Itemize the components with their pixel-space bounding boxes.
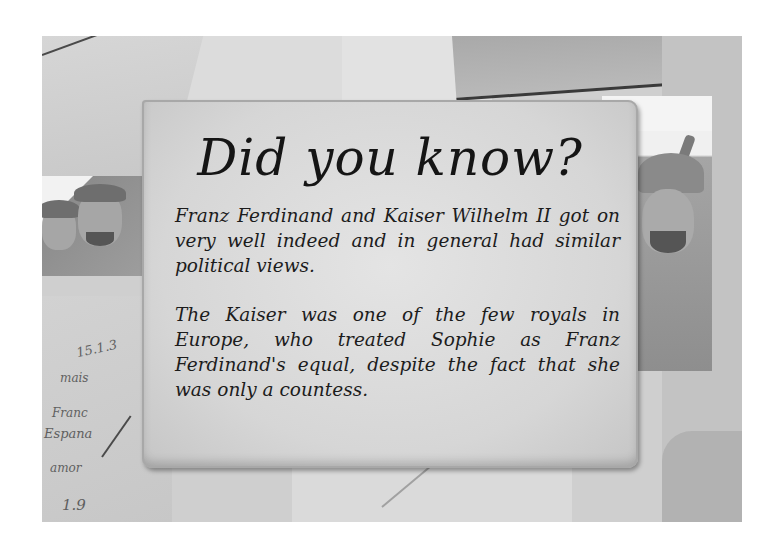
did-you-know-card: Did you know? Franz Ferdinand and Kaiser… xyxy=(142,100,638,468)
handwriting: 1.9 xyxy=(62,496,86,514)
handwriting: Espana xyxy=(44,426,92,441)
soldier-face xyxy=(642,189,694,253)
soldier-face xyxy=(42,206,76,250)
handwriting: Franc xyxy=(52,406,88,420)
torn-dark-paper xyxy=(452,36,671,101)
soldiers-photo-left xyxy=(42,176,142,276)
card-paragraph: The Kaiser was one of the few royals in … xyxy=(175,302,620,402)
soldier-face xyxy=(78,190,122,246)
card-title: Did you know? xyxy=(142,130,638,186)
pickelhaube-helmet xyxy=(638,153,704,193)
handwriting: amor xyxy=(50,461,82,475)
handwriting: mais xyxy=(60,371,89,385)
dark-corner-paper xyxy=(662,431,742,522)
soldier-photo-right xyxy=(634,131,712,371)
card-body: Franz Ferdinand and Kaiser Wilhelm II go… xyxy=(175,203,620,426)
envelope-flap xyxy=(292,466,572,522)
card-paragraph: Franz Ferdinand and Kaiser Wilhelm II go… xyxy=(175,203,620,278)
